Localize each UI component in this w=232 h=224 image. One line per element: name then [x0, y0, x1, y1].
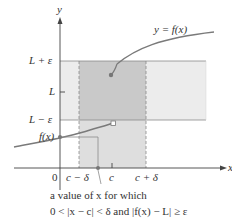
caption-pointer: [98, 170, 101, 184]
x-dot-icon: [96, 166, 100, 170]
intersection-region: [79, 61, 146, 120]
x-axis-label: x: [228, 162, 232, 173]
curve-label: y = f(x): [154, 24, 187, 35]
open-point-icon: [111, 121, 116, 126]
caption-line-2: 0 < |x − c| < δ and |f(x) − L| ≥ ε: [50, 206, 187, 217]
epsilon-delta-diagram: y x y = f(x) L + ε L L − ε f(x) 0 c − δ …: [0, 0, 232, 224]
x-tick-center: c: [109, 172, 114, 183]
x-tick-left: c − δ: [66, 172, 89, 183]
y-tick-mid: L: [49, 86, 55, 97]
curve-upper-branch: [117, 32, 214, 64]
caption-line-1: a value of x for which: [50, 190, 147, 201]
x-axis-arrow-icon: [220, 166, 227, 171]
filled-point-icon: [109, 73, 113, 77]
y-axis-arrow-icon: [58, 17, 63, 24]
y-axis-label: y: [57, 4, 62, 15]
fx-dot-icon: [58, 135, 62, 139]
y-tick-lower: L − ε: [29, 114, 52, 125]
x-tick-origin: 0: [52, 172, 58, 183]
band-left-part: [60, 61, 79, 120]
y-tick-upper: L + ε: [29, 55, 52, 66]
x-tick-right: c + δ: [135, 172, 158, 183]
delta-strip-lower: [79, 120, 146, 168]
y-tick-fx: f(x): [39, 131, 54, 142]
